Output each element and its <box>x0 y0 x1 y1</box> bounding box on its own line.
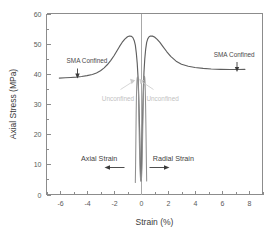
chart-annotations: SMA ConfinedSMA ConfinedUnconfinedUnconf… <box>67 51 255 163</box>
x-axis-ticks: -6-4-202468 <box>48 191 264 207</box>
x-tick-label: -6 <box>57 200 63 207</box>
chart-figure: 0102030405060 -6-4-202468 <box>0 0 277 237</box>
annotation-unconfined-right: Unconfined <box>146 95 179 102</box>
strain-direction-arrows <box>105 165 170 170</box>
annotation-sma-confined-right: SMA Confined <box>214 51 255 58</box>
y-tick-label: 0 <box>38 192 42 199</box>
annotation-axial-strain-label: Axial Strain <box>81 154 117 163</box>
y-tick-label: 60 <box>34 11 42 18</box>
annotation-arrows <box>75 62 239 90</box>
y-axis-title: Axial Stress (MPa) <box>8 69 18 140</box>
y-tick-label: 50 <box>34 41 42 48</box>
annotation-radial-strain-label: Radial Strain <box>153 154 194 163</box>
annotation-sma-confined-left: SMA Confined <box>67 57 108 64</box>
x-tick-label: 8 <box>248 200 252 207</box>
y-tick-label: 20 <box>34 131 42 138</box>
x-tick-label: 4 <box>194 200 198 207</box>
x-tick-label: 6 <box>221 200 225 207</box>
axial-stress-strain-chart: 0102030405060 -6-4-202468 <box>0 0 277 237</box>
y-tick-label: 30 <box>34 101 42 108</box>
x-axis-title: Strain (%) <box>136 217 174 227</box>
x-tick-label: 0 <box>140 200 144 207</box>
x-tick-label: 2 <box>167 200 171 207</box>
x-tick-label: -2 <box>111 200 117 207</box>
y-axis-ticks: 0102030405060 <box>34 11 51 199</box>
x-tick-label: -4 <box>84 200 90 207</box>
y-tick-label: 10 <box>34 161 42 168</box>
y-tick-label: 40 <box>34 71 42 78</box>
annotation-unconfined-left: Unconfined <box>102 95 135 102</box>
